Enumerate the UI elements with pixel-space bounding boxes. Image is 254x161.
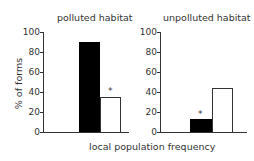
right-chart-title: unpolluted habitat bbox=[163, 12, 251, 23]
right-tick-40: 40 bbox=[137, 87, 157, 97]
left-tick-40: 40 bbox=[20, 87, 40, 97]
left-y-axis bbox=[43, 32, 44, 133]
left-tick-20: 20 bbox=[20, 107, 40, 117]
significance-star: * bbox=[198, 109, 203, 119]
right-tick-60: 60 bbox=[137, 67, 157, 77]
right-y-axis bbox=[160, 32, 161, 133]
y-axis-label: % of forms bbox=[13, 54, 24, 114]
left-tickmark bbox=[40, 112, 43, 113]
right-white-bar bbox=[212, 88, 233, 133]
right-tick-100: 100 bbox=[137, 27, 157, 37]
right-tickmark bbox=[157, 112, 160, 113]
left-tick-100: 100 bbox=[20, 27, 40, 37]
left-tickmark bbox=[40, 52, 43, 53]
left-tickmark bbox=[40, 32, 43, 33]
left-chart-title: polluted habitat bbox=[57, 12, 133, 23]
left-white-bar bbox=[100, 97, 121, 133]
right-tickmark bbox=[157, 52, 160, 53]
right-black-bar bbox=[190, 119, 212, 132]
right-tick-20: 20 bbox=[137, 107, 157, 117]
right-tick-80: 80 bbox=[137, 47, 157, 57]
right-tickmark bbox=[157, 92, 160, 93]
right-x-axis bbox=[160, 132, 247, 133]
x-axis-label: local population frequency bbox=[89, 141, 215, 152]
left-tick-60: 60 bbox=[20, 67, 40, 77]
right-tickmark bbox=[157, 32, 160, 33]
right-tick-0: 0 bbox=[137, 127, 157, 137]
left-tickmark bbox=[40, 72, 43, 73]
left-tick-0: 0 bbox=[20, 127, 40, 137]
left-tickmark bbox=[40, 92, 43, 93]
right-tickmark bbox=[157, 72, 160, 73]
left-black-bar bbox=[79, 42, 100, 132]
left-tick-80: 80 bbox=[20, 47, 40, 57]
significance-star: * bbox=[108, 86, 113, 96]
